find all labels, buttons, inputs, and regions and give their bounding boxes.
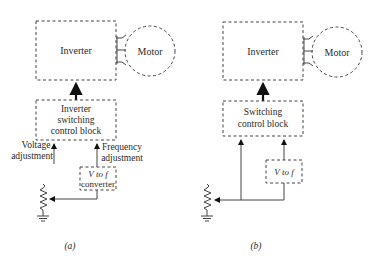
- control-block-line1-a: Inverter: [61, 104, 92, 114]
- control-block-line1-b: Switching: [244, 107, 283, 117]
- caption-b: (b): [250, 241, 261, 252]
- vf-converter-line1-b: V to f: [274, 167, 295, 177]
- vf-converter-line1-a: V to f: [88, 169, 109, 179]
- potentiometer-icon-a: [37, 184, 49, 221]
- caption-a: (a): [64, 241, 75, 252]
- motor-label-a: Motor: [138, 46, 164, 57]
- panel-a: Inverter Motor Inverter switching contro…: [11, 21, 175, 252]
- control-block-line3-a: control block: [51, 126, 102, 136]
- frequency-label-line2-a: adjustment: [101, 153, 143, 163]
- motor-label-b: Motor: [325, 47, 351, 58]
- inverter-label-a: Inverter: [60, 45, 92, 56]
- phase-lines-a: [116, 35, 126, 65]
- vf-converter-line2-a: converter: [81, 179, 115, 189]
- voltage-label-line1-a: Voltage: [22, 140, 51, 150]
- inverter-label-b: Inverter: [247, 46, 279, 57]
- control-block-line2-b: control block: [238, 119, 289, 129]
- wiper-wire-b: [215, 183, 284, 200]
- wiper-wire-a: [50, 190, 97, 199]
- vf-motor-control-diagram: Inverter Motor Inverter switching contro…: [0, 0, 374, 263]
- frequency-label-line1-a: Frequency: [102, 142, 142, 152]
- potentiometer-icon-b: [201, 184, 213, 221]
- voltage-label-line2-a: adjustment: [11, 151, 53, 161]
- control-block-line2-a: switching: [58, 115, 95, 125]
- phase-lines-b: [303, 36, 313, 66]
- panel-b: Inverter Motor Switching control block V…: [201, 22, 362, 252]
